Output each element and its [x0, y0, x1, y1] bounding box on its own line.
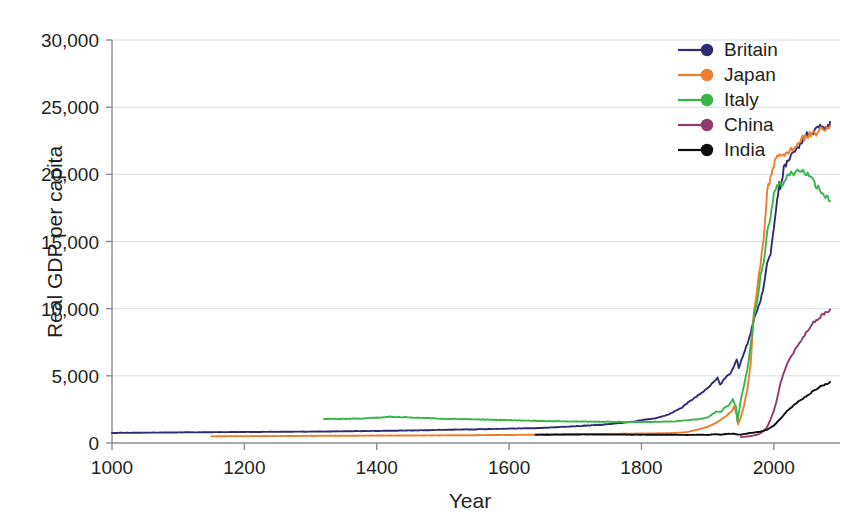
y-tick-label: 0: [88, 433, 99, 454]
x-tick-label: 2000: [753, 457, 795, 478]
y-tick-label: 5,000: [51, 366, 99, 387]
legend-marker-britain: [701, 44, 713, 56]
chart-canvas: 05,00010,00015,00020,00025,00030,000 100…: [0, 0, 866, 520]
legend-marker-italy: [701, 94, 713, 106]
legend-label-britain: Britain: [724, 39, 778, 60]
legend-marker-china: [701, 119, 713, 131]
legend-label-japan: Japan: [724, 64, 776, 85]
x-tick-label: 1400: [356, 457, 398, 478]
series-line-italy: [324, 170, 830, 423]
x-axis-tick-labels: 100012001400160018002000: [91, 457, 795, 478]
data-series: [112, 122, 830, 437]
series-line-japan: [211, 126, 830, 436]
x-tick-label: 1200: [223, 457, 265, 478]
legend-marker-india: [701, 144, 713, 156]
series-line-china: [741, 309, 830, 437]
y-axis-title: Real GDP per capita: [43, 146, 66, 339]
x-tick-label: 1800: [620, 457, 662, 478]
legend-label-china: China: [724, 114, 774, 135]
gdp-per-capita-line-chart: 05,00010,00015,00020,00025,00030,000 100…: [0, 0, 866, 520]
x-axis-title: Year: [449, 489, 491, 512]
legend-marker-japan: [701, 69, 713, 81]
x-tick-label: 1600: [488, 457, 530, 478]
y-tick-label: 30,000: [41, 30, 99, 51]
legend-label-india: India: [724, 139, 766, 160]
y-tick-label: 25,000: [41, 97, 99, 118]
legend-label-italy: Italy: [724, 89, 759, 110]
chart-legend: BritainJapanItalyChinaIndia: [678, 39, 778, 160]
series-line-britain: [112, 122, 830, 433]
x-tick-label: 1000: [91, 457, 133, 478]
